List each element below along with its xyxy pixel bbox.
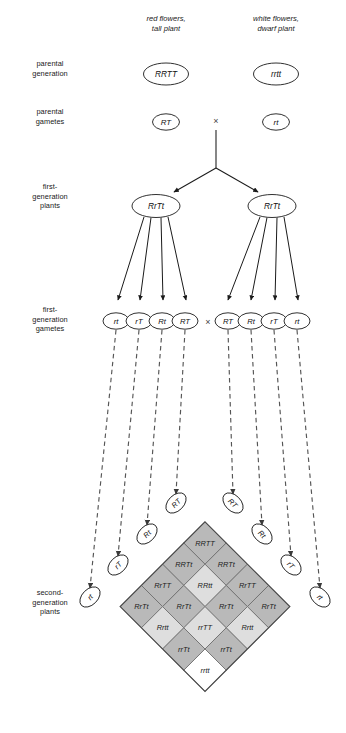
first-generation-gamete-right-1: RT: [215, 313, 241, 329]
punnett-genotype-r3c1: RrTT: [239, 581, 256, 590]
parental-gamete-oval-left: RT: [153, 114, 180, 130]
punnett-genotype-r1c1: RRTT: [195, 539, 215, 548]
parental-generation-oval-left: RRTT: [144, 63, 189, 85]
punnett-genotype-r1c4: RrTt: [134, 602, 149, 611]
first-generation-plant-genotype-left: RrTt: [148, 201, 165, 211]
parental-generation-genotype-right: rrtt: [271, 69, 282, 79]
parental-gamete-genotype-right: rt: [274, 118, 280, 127]
punnett-genotype-r3c4: rrTt: [178, 645, 190, 654]
first-generation-gamete-left-genotype-4: RT: [180, 317, 191, 326]
parental-generation-genotype-left: RRTT: [155, 69, 178, 79]
first-generation-plant-oval-right: RrTt: [248, 195, 296, 218]
punnett-genotype-r3c2: RrTt: [219, 602, 234, 611]
first-generation-gamete-right-4: rt: [284, 313, 310, 329]
punnett-genotype-r4c2: Rrtt: [241, 623, 254, 632]
cross-fork-lines: [174, 130, 258, 192]
parental-gamete-oval-right: rt: [263, 114, 290, 130]
punnett-genotype-r1c3: RrTT: [154, 581, 171, 590]
punnett-genotype-r1c2: RRTt: [175, 560, 193, 569]
punnett-genotype-r2c1: RRTt: [218, 560, 236, 569]
punnett-genotype-r4c3: rrTt: [220, 645, 232, 654]
punnett-genotype-r4c4: rrtt: [200, 666, 210, 675]
punnett-genotype-r2c3: RrTt: [177, 602, 192, 611]
punnett-genotype-r2c4: Rrtt: [157, 623, 170, 632]
first-generation-gamete-left-2: rT: [126, 313, 152, 329]
gamete-fan-lines-left: [118, 217, 186, 300]
first-generation-gamete-right-genotype-2: Rt: [247, 317, 256, 326]
diagram-artwork: RRTT rrtt RT rt RrTt RrTt: [0, 0, 346, 733]
first-generation-gamete-left-3: Rt: [149, 313, 175, 329]
first-generation-gamete-left-1: rt: [103, 313, 129, 329]
parental-generation-oval-right: rrtt: [254, 63, 299, 85]
punnett-genotype-r2c2: RRtt: [198, 581, 214, 590]
punnett-genotype-r3c3: rrTT: [198, 623, 212, 632]
first-generation-gamete-left-genotype-3: Rt: [158, 317, 167, 326]
parental-gamete-genotype-left: RT: [161, 118, 173, 127]
first-generation-gamete-right-3: rT: [261, 313, 287, 329]
first-generation-plant-genotype-right: RrTt: [264, 201, 281, 211]
punnett-genotype-r4c1: RrTt: [261, 602, 276, 611]
figure-canvas: red flowers, tall plant white flowers, d…: [0, 0, 346, 733]
first-generation-plant-oval-left: RrTt: [132, 195, 180, 218]
first-generation-gamete-right-genotype-1: RT: [223, 317, 234, 326]
first-generation-gamete-right-2: Rt: [238, 313, 264, 329]
first-generation-gamete-left-4: RT: [172, 313, 198, 329]
gamete-fan-lines-right: [228, 217, 298, 300]
